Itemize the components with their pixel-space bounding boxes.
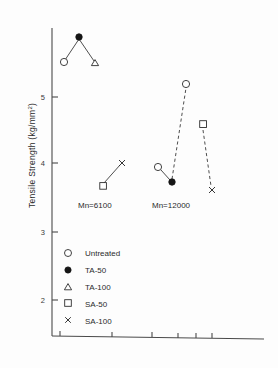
point-mn6100-ta50[interactable] bbox=[76, 34, 82, 40]
annotation-mn12000: Mn=12000 bbox=[152, 201, 191, 210]
point-mn6100-ta100[interactable] bbox=[91, 60, 98, 66]
legend-marker-triangle-icon bbox=[64, 284, 71, 290]
series-mn12000-sa-line bbox=[203, 130, 211, 186]
legend-item-sa50[interactable]: SA-50 bbox=[65, 300, 108, 309]
legend-item-ta50[interactable]: TA-50 bbox=[65, 266, 107, 275]
legend-label-sa50: SA-50 bbox=[85, 300, 108, 309]
point-mn12000-ta50[interactable] bbox=[169, 179, 175, 185]
legend-item-sa100[interactable]: SA-100 bbox=[65, 317, 112, 326]
series-mn12000-ta-line bbox=[161, 170, 170, 180]
y-axis-ticks: 5 4 3 2 bbox=[41, 93, 58, 305]
point-mn6100-sa50[interactable] bbox=[100, 183, 107, 190]
series-mn12000-sa bbox=[200, 121, 215, 193]
y-tick-label-4: 4 bbox=[41, 159, 45, 168]
series-mn12000-ta100-link-line bbox=[172, 88, 186, 179]
plot-area: 5 4 3 2 bbox=[0, 0, 278, 368]
point-mn12000-untreated[interactable] bbox=[154, 163, 161, 170]
legend-label-ta100: TA-100 bbox=[85, 283, 111, 292]
series-mn12000-ta bbox=[154, 163, 175, 185]
legend-label-ta50: TA-50 bbox=[85, 266, 107, 275]
y-tick-label-3: 3 bbox=[41, 228, 45, 237]
chart-figure: Tensile Strength (kg/mm2) 5 4 3 2 bbox=[0, 0, 278, 368]
legend-marker-square-icon bbox=[65, 300, 72, 307]
point-mn12000-sa50[interactable] bbox=[200, 121, 207, 128]
legend-marker-cross-icon bbox=[65, 317, 71, 323]
legend-label-sa100: SA-100 bbox=[85, 317, 112, 326]
legend-marker-filled-circle-icon bbox=[65, 267, 71, 273]
series-mn6100-sa bbox=[100, 160, 125, 189]
series-mn6100-ta bbox=[60, 34, 98, 66]
point-mn12000-ta100[interactable] bbox=[182, 80, 189, 87]
x-axis-line bbox=[52, 336, 264, 339]
legend-item-ta100[interactable]: TA-100 bbox=[64, 283, 111, 292]
point-mn6100-untreated[interactable] bbox=[60, 58, 67, 65]
legend-marker-open-circle-icon bbox=[65, 250, 72, 257]
y-tick-label-5: 5 bbox=[41, 93, 45, 102]
legend-label-untreated: Untreated bbox=[85, 249, 120, 258]
legend: Untreated TA-50 TA-100 SA-50 SA-100 bbox=[64, 249, 120, 326]
annotation-mn6100: Mn=6100 bbox=[78, 201, 112, 210]
y-tick-label-2: 2 bbox=[41, 296, 45, 305]
series-mn12000-ta100-link bbox=[172, 80, 190, 179]
series-mn6100-sa-line bbox=[104, 165, 120, 183]
series-mn6100-ta-line bbox=[65, 39, 94, 61]
point-mn6100-sa100[interactable] bbox=[119, 160, 125, 166]
legend-item-untreated[interactable]: Untreated bbox=[65, 249, 121, 258]
point-mn12000-sa100[interactable] bbox=[209, 187, 215, 193]
